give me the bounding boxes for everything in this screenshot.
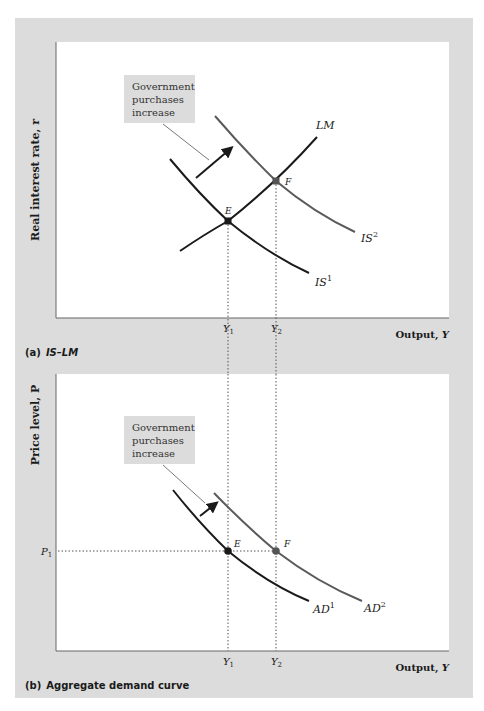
islm-point-e <box>225 218 232 225</box>
ad-x-axis-label: Output, Y <box>395 662 449 674</box>
islm-tick-y2: Y2 <box>271 323 282 336</box>
islm-point-f-label: F <box>284 177 292 187</box>
ad-tick-y2: Y2 <box>271 656 282 669</box>
ad-tick-y1: Y1 <box>223 656 234 669</box>
islm-callout-line1: Government <box>132 81 195 92</box>
ad-plot-area <box>56 374 449 651</box>
ad-point-e <box>224 547 232 555</box>
islm-callout-line2: purchases <box>132 94 184 105</box>
islm-plot-area <box>56 42 449 318</box>
ad-tick-p1: P1 <box>40 546 52 559</box>
islm-tick-y1: Y1 <box>223 323 234 336</box>
islm-point-f <box>273 178 280 185</box>
ad-point-f-label: F <box>283 539 291 549</box>
figure-svg: Real interest rate, r Government purchas… <box>0 0 484 711</box>
ad-callout-line1: Government <box>132 422 195 433</box>
ad-callout-line2: purchases <box>132 435 184 446</box>
islm-caption: (a)IS–LM <box>25 347 78 358</box>
ad-y-axis-label: Price level, P <box>29 385 42 465</box>
ad-point-f <box>272 547 280 555</box>
ad-callout-line3: increase <box>132 448 175 459</box>
islm-y-axis-label: Real interest rate, r <box>29 119 42 241</box>
ad-point-e-label: E <box>233 539 241 549</box>
ad-chart: Price level, P P1 Government purchases i… <box>25 374 450 691</box>
lm-label: LM <box>315 119 335 132</box>
islm-callout-line3: increase <box>132 107 175 118</box>
ad-caption: (b)Aggregate demand curve <box>25 680 189 691</box>
islm-point-e-label: E <box>224 206 232 216</box>
islm-x-axis-label: Output, Y <box>395 329 449 341</box>
